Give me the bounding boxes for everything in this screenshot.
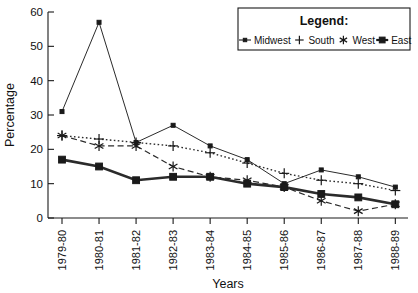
x-tick-label: 1979-80 (56, 230, 68, 270)
data-point-marker (379, 37, 385, 43)
y-tick-label: 40 (30, 75, 43, 87)
x-tick-label: 1982-83 (167, 230, 179, 270)
data-point-marker (96, 163, 103, 170)
data-point-marker (392, 201, 399, 208)
data-point-marker (171, 123, 175, 127)
x-tick-label: 1980-81 (93, 230, 105, 270)
data-point-marker (356, 175, 360, 179)
data-point-marker (207, 173, 214, 180)
y-tick-label: 0 (37, 212, 43, 224)
chart-figure: 0102030405060Percentage1979-801980-81198… (0, 0, 418, 293)
data-point-marker (59, 156, 66, 163)
x-tick-label: 1987-88 (352, 230, 364, 270)
legend-label-east: East (391, 35, 411, 46)
data-point-marker (60, 110, 64, 114)
data-point-marker (319, 168, 323, 172)
legend-label-midwest: Midwest (254, 35, 291, 46)
data-point-marker (355, 194, 362, 201)
data-point-marker (243, 38, 246, 41)
line-chart-canvas: 0102030405060Percentage1979-801980-81198… (0, 0, 418, 293)
y-axis-title: Percentage (3, 83, 17, 147)
legend: Legend:MidwestSouthWestEast (238, 8, 411, 50)
data-point-marker (170, 173, 177, 180)
y-tick-label: 10 (30, 178, 43, 190)
data-point-marker (244, 180, 251, 187)
x-axis-title: Years (212, 277, 244, 291)
x-tick-label: 1985-86 (278, 230, 290, 270)
y-tick-label: 50 (30, 40, 43, 52)
x-tick-label: 1986-87 (315, 230, 327, 270)
data-point-marker (318, 191, 325, 198)
x-tick-label: 1983-84 (204, 230, 216, 270)
data-point-marker (97, 20, 101, 24)
series-east (59, 156, 399, 207)
series-line-west (62, 136, 395, 212)
legend-label-south: South (308, 35, 334, 46)
legend-label-west: West (352, 35, 375, 46)
series-line-east (62, 160, 395, 205)
data-point-marker (133, 177, 140, 184)
legend-title: Legend: (300, 14, 349, 28)
x-tick-label: 1984-85 (241, 230, 253, 270)
x-tick-label: 1988-89 (389, 230, 401, 270)
series-west (58, 131, 400, 217)
series-south (57, 131, 400, 196)
data-point-marker (208, 144, 212, 148)
data-point-marker (281, 184, 288, 191)
y-tick-label: 30 (30, 109, 43, 121)
series-line-south (62, 136, 395, 191)
x-tick-label: 1981-82 (130, 230, 142, 270)
y-tick-label: 60 (30, 6, 43, 18)
y-tick-label: 20 (30, 143, 43, 155)
